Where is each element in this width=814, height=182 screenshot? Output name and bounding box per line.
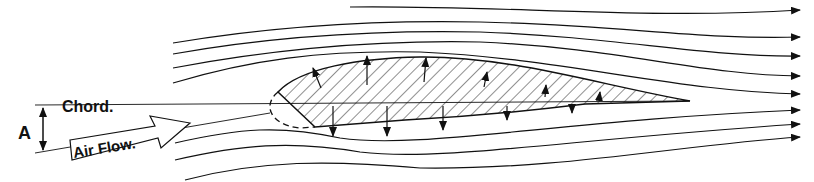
diagram-canvas: Chord. Air Flow. A: [0, 0, 814, 182]
chord-label: Chord.: [62, 98, 114, 115]
streamlines-lower: [175, 110, 800, 180]
airfoil-diagram: Chord. Air Flow. A: [0, 0, 814, 182]
angle-label: A: [18, 123, 31, 143]
